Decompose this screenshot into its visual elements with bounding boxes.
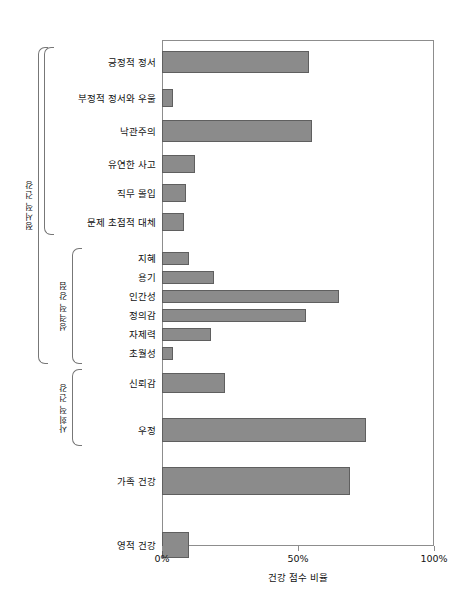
category-label-3: 유연한 사고 xyxy=(2,159,162,170)
bar-4[interactable] xyxy=(162,184,434,202)
bar-1[interactable] xyxy=(162,89,434,107)
bar-fill xyxy=(162,89,173,107)
category-label-0: 긍정적 정서 xyxy=(2,57,162,68)
x-tick-label-1: 50% xyxy=(287,553,308,564)
group-emotional-bracket xyxy=(38,47,48,364)
bar-fill xyxy=(162,51,309,73)
group-character-label: 성격적 강점 xyxy=(58,280,70,331)
bar-11[interactable] xyxy=(162,347,434,360)
bar-fill xyxy=(162,373,225,393)
bar-fill xyxy=(162,418,366,442)
bar-8[interactable] xyxy=(162,290,434,303)
category-label-8: 인간성 xyxy=(2,291,162,302)
bar-chart: 긍정적 정서부정적 정서와 우울낙관주의유연한 사고직무 몰입문제 초점적 대체… xyxy=(0,0,475,601)
bar-fill xyxy=(162,252,189,265)
bar-12[interactable] xyxy=(162,373,434,393)
bar-fill xyxy=(162,184,186,202)
group-social-label: 사회적 건강 xyxy=(58,382,70,433)
x-axis: 건강 점수 비율 0%50%100% xyxy=(162,546,434,586)
category-label-2: 낙관주의 xyxy=(2,126,162,137)
bar-fill xyxy=(162,328,211,341)
x-tick-mark-0 xyxy=(162,546,163,551)
bar-3[interactable] xyxy=(162,155,434,173)
category-label-11: 초월성 xyxy=(2,348,162,359)
category-label-14: 가족 건강 xyxy=(2,476,162,487)
bar-fill xyxy=(162,467,350,495)
bar-14[interactable] xyxy=(162,467,434,495)
x-tick-mark-2 xyxy=(434,546,435,551)
bar-fill xyxy=(162,120,312,142)
bar-0[interactable] xyxy=(162,51,434,73)
category-label-12: 신뢰감 xyxy=(2,378,162,389)
bar-fill xyxy=(162,309,306,322)
category-label-15: 영적 건강 xyxy=(2,540,162,551)
group-social-bracket xyxy=(72,369,82,446)
bar-6[interactable] xyxy=(162,252,434,265)
category-label-1: 부정적 정서와 우울 xyxy=(2,93,162,104)
bar-2[interactable] xyxy=(162,120,434,142)
bar-fill xyxy=(162,213,184,231)
bar-10[interactable] xyxy=(162,328,434,341)
bar-5[interactable] xyxy=(162,213,434,231)
category-label-10: 자제력 xyxy=(2,329,162,340)
bar-fill xyxy=(162,271,214,284)
category-label-9: 정의감 xyxy=(2,310,162,321)
bars-layer xyxy=(162,40,434,546)
x-axis-title: 건강 점수 비율 xyxy=(268,570,328,584)
x-tick-mark-1 xyxy=(298,546,299,551)
bar-fill xyxy=(162,155,195,173)
bar-7[interactable] xyxy=(162,271,434,284)
group-emotional-label: 정서적 건강 xyxy=(24,180,36,231)
bar-13[interactable] xyxy=(162,418,434,442)
category-label-7: 용기 xyxy=(2,272,162,283)
category-label-13: 우정 xyxy=(2,425,162,436)
bar-fill xyxy=(162,290,339,303)
bar-fill xyxy=(162,347,173,360)
x-tick-label-0: 0% xyxy=(154,553,169,564)
bar-9[interactable] xyxy=(162,309,434,322)
x-tick-label-2: 100% xyxy=(420,553,447,564)
group-character-bracket xyxy=(72,248,82,364)
category-label-6: 지혜 xyxy=(2,253,162,264)
